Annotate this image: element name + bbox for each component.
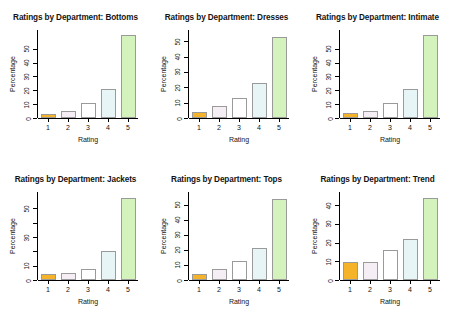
bar[interactable] [383, 250, 398, 280]
bar[interactable] [252, 83, 267, 118]
x-axis-tick-label: 5 [428, 286, 432, 293]
bar[interactable] [41, 274, 56, 280]
bar[interactable] [101, 89, 116, 118]
x-axis-tick [108, 119, 109, 122]
y-axis-tick: 10 [33, 104, 37, 105]
x-axis-tick [279, 119, 280, 122]
y-axis-tick: 30 [335, 76, 339, 77]
y-axis-tick: 50 [184, 41, 188, 42]
bar[interactable] [61, 111, 76, 118]
y-axis-tick-label: 40 [175, 53, 182, 60]
y-axis-tick: 0 [33, 118, 37, 119]
x-axis-tick [390, 281, 391, 284]
x-axis-tick-label: 2 [217, 124, 221, 131]
y-axis-tick: 50 [33, 49, 37, 50]
bar[interactable] [232, 261, 247, 280]
y-axis-tick-label: 50 [175, 38, 182, 45]
bar[interactable] [81, 103, 96, 118]
x-axis-tick-label: 2 [368, 124, 372, 131]
x-axis-tick-label: 2 [66, 124, 70, 131]
bar[interactable] [212, 269, 227, 280]
y-axis-tick-label: 20 [175, 247, 182, 254]
y-axis-tick-label: 30 [175, 69, 182, 76]
y-axis-tick: 30 [184, 235, 188, 236]
bar[interactable] [121, 35, 136, 118]
plot-area [189, 32, 289, 118]
chart-panel: Ratings by Department: Dresses0102030405… [151, 0, 302, 162]
x-axis-tick-label: 5 [428, 124, 432, 131]
y-axis-tick-label: 40 [326, 59, 333, 66]
x-axis-tick-label: 1 [348, 124, 352, 131]
y-axis-tick: 40 [335, 205, 339, 206]
x-axis-tick-label: 5 [277, 286, 281, 293]
x-axis-tick [390, 119, 391, 122]
x-axis-tick [430, 119, 431, 122]
x-axis-tick [370, 119, 371, 122]
y-axis-tick-label: 0 [177, 117, 184, 121]
y-axis-tick: 0 [184, 118, 188, 119]
bar[interactable] [363, 262, 378, 280]
x-axis-tick [68, 119, 69, 122]
y-axis-tick-label: 30 [326, 221, 333, 228]
bar[interactable] [41, 114, 56, 118]
x-axis-tick [239, 119, 240, 122]
y-axis-tick: 20 [335, 90, 339, 91]
x-axis-tick-label: 5 [126, 124, 130, 131]
bar[interactable] [212, 106, 227, 118]
bar-series [340, 194, 440, 280]
y-axis-tick-label: 0 [26, 117, 33, 121]
bar[interactable] [363, 111, 378, 118]
bar[interactable] [423, 35, 438, 118]
x-axis-tick-label: 3 [86, 124, 90, 131]
plot-area [340, 194, 440, 280]
x-axis-label: Rating [38, 298, 138, 305]
bar[interactable] [343, 113, 358, 118]
bar[interactable] [121, 198, 136, 280]
y-axis-tick-label: 30 [326, 73, 333, 80]
y-axis-tick: 30 [335, 224, 339, 225]
bar[interactable] [343, 262, 358, 280]
y-axis-tick: 10 [33, 266, 37, 267]
x-axis-label: Rating [340, 298, 440, 305]
bar[interactable] [192, 274, 207, 280]
x-axis-tick-label: 4 [106, 286, 110, 293]
y-axis-tick: 30 [184, 72, 188, 73]
bar[interactable] [383, 103, 398, 118]
plot-area [38, 194, 138, 280]
chart-title: Ratings by Department: Bottoms [0, 13, 151, 22]
y-axis-tick: 30 [33, 237, 37, 238]
x-axis-tick [48, 119, 49, 122]
bar[interactable] [403, 89, 418, 118]
bar[interactable] [101, 251, 116, 280]
plot-area [189, 194, 289, 280]
bar[interactable] [403, 239, 418, 280]
y-axis-tick-label: 20 [326, 87, 333, 94]
y-axis-tick-label: 0 [328, 279, 335, 283]
y-axis-tick-label: 40 [24, 59, 31, 66]
chart-panel: Ratings by Department: Trend010203040123… [302, 162, 453, 324]
y-axis-tick: 0 [335, 118, 339, 119]
bar[interactable] [81, 269, 96, 280]
y-axis-label: Percentage [9, 218, 16, 254]
x-axis-tick-label: 5 [126, 286, 130, 293]
bar[interactable] [192, 112, 207, 118]
x-axis-tick-label: 2 [368, 286, 372, 293]
bar[interactable] [272, 199, 287, 280]
bar[interactable] [272, 37, 287, 118]
bar-series [340, 32, 440, 118]
y-axis-tick-label: 20 [175, 84, 182, 91]
chart-panel: Ratings by Department: Jackets0103050123… [0, 162, 151, 324]
y-axis-tick: 50 [33, 208, 37, 209]
bar[interactable] [423, 198, 438, 280]
x-axis-tick [259, 281, 260, 284]
bar[interactable] [252, 248, 267, 280]
y-axis-label: Percentage [160, 56, 167, 92]
y-axis-tick-label: 10 [326, 101, 333, 108]
x-axis-tick-label: 2 [217, 286, 221, 293]
y-axis-tick-label: 30 [24, 73, 31, 80]
y-axis-tick-label: 0 [26, 279, 33, 283]
bar[interactable] [232, 98, 247, 118]
y-axis-tick: 10 [335, 261, 339, 262]
bar[interactable] [61, 273, 76, 280]
y-axis-tick: 20 [184, 87, 188, 88]
